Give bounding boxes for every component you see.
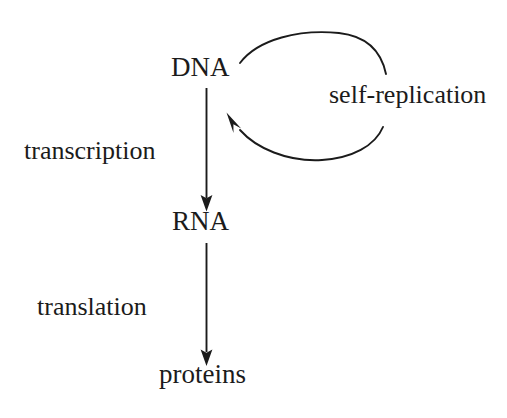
arrow-rna-to-proteins: [201, 243, 213, 366]
edge-label-translation: translation: [37, 294, 147, 320]
node-label-rna: RNA: [172, 208, 229, 235]
node-label-dna: DNA: [171, 54, 230, 81]
self-replication-arrow-head: [227, 113, 242, 134]
self-replication-arc-top: [240, 32, 386, 74]
node-label-proteins: proteins: [159, 361, 246, 388]
central-dogma-diagram: DNA RNA proteins transcription translati…: [0, 0, 507, 418]
arrow-dna-to-rna: [201, 88, 213, 212]
edge-label-transcription: transcription: [24, 138, 155, 164]
self-replication-arc-bottom: [240, 127, 383, 160]
diagram-canvas: [0, 0, 507, 418]
edge-label-self-replication: self-replication: [329, 82, 486, 108]
